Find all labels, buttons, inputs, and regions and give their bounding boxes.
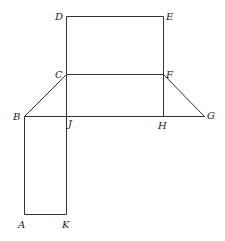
- point-label-g: G: [207, 110, 215, 121]
- diagram-labels: DECFBJHGAK: [12, 11, 215, 230]
- point-label-j: J: [66, 118, 73, 129]
- diagram-segments: [25, 17, 205, 215]
- point-label-h: H: [157, 120, 167, 131]
- segment-cb: [25, 75, 67, 117]
- point-label-e: E: [165, 11, 174, 22]
- point-label-b: B: [12, 111, 20, 122]
- point-label-c: C: [55, 69, 63, 80]
- point-label-k: K: [61, 219, 70, 230]
- point-label-a: A: [17, 219, 25, 230]
- point-label-f: F: [165, 69, 174, 80]
- geometry-diagram: DECFBJHGAK: [0, 0, 225, 241]
- point-label-d: D: [54, 11, 63, 22]
- segment-fg: [164, 75, 205, 117]
